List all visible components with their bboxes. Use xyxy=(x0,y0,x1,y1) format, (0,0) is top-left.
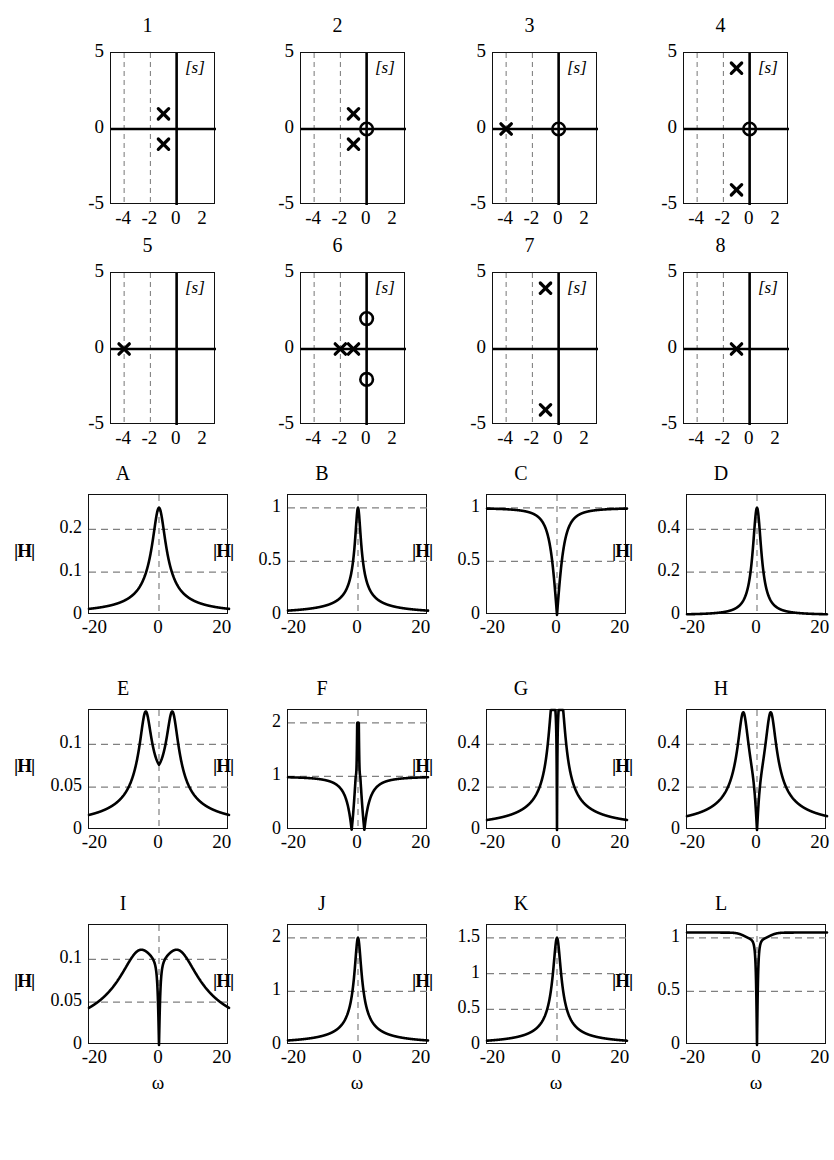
pz-y-tick: 0 xyxy=(268,116,294,138)
magnitude-canvas xyxy=(487,710,627,830)
panel-title: 6 xyxy=(230,234,445,257)
pz-x-tick: 2 xyxy=(567,207,601,229)
mag-x-tick: 0 xyxy=(136,1046,180,1068)
panel-title: K xyxy=(416,892,626,915)
mag-y-axis-label: |H| xyxy=(213,970,233,992)
pz-y-tick: 0 xyxy=(651,116,677,138)
magnitude-axes xyxy=(486,924,626,1044)
panel-title: 7 xyxy=(422,234,637,257)
magnitude-axes xyxy=(287,924,427,1044)
mag-x-tick: -20 xyxy=(670,1046,714,1068)
mag-y-axis-label: |H| xyxy=(612,755,632,777)
magnitude-panel: J012-20020|H|ω xyxy=(217,892,447,1092)
mag-y-tick: 0.5 xyxy=(235,549,281,570)
magnitude-canvas xyxy=(687,925,827,1045)
mag-y-tick: 0.2 xyxy=(634,560,680,581)
mag-x-tick: 0 xyxy=(335,1046,379,1068)
mag-x-tick: 0 xyxy=(335,831,379,853)
magnitude-panel: I00.050.1-20020|H|ω xyxy=(18,892,248,1092)
magnitude-canvas xyxy=(487,925,627,1045)
mag-x-tick: 20 xyxy=(798,831,834,853)
mag-y-axis-label: |H| xyxy=(213,540,233,562)
mag-x-tick: -20 xyxy=(670,831,714,853)
pz-y-tick: 0 xyxy=(460,116,486,138)
magnitude-axes xyxy=(486,709,626,829)
pz-y-tick: -5 xyxy=(460,412,486,434)
mag-y-tick: 1 xyxy=(235,496,281,517)
panel-title: 2 xyxy=(230,14,445,37)
mag-x-tick: 0 xyxy=(734,616,778,638)
s-plane-label: [s] xyxy=(185,58,205,78)
magnitude-canvas xyxy=(687,710,827,830)
pole-marker xyxy=(731,63,741,73)
mag-x-tick: -20 xyxy=(271,616,315,638)
s-plane-label: [s] xyxy=(185,278,205,298)
mag-x-tick: -20 xyxy=(72,616,116,638)
panel-title: G xyxy=(416,677,626,700)
mag-x-tick: 0 xyxy=(534,616,578,638)
pz-y-tick: -5 xyxy=(78,192,104,214)
panel-title: L xyxy=(616,892,826,915)
magnitude-panel: L00.51-20020|H|ω xyxy=(616,892,834,1092)
pz-y-tick: 5 xyxy=(651,40,677,62)
pz-y-tick: 0 xyxy=(651,336,677,358)
pole-marker xyxy=(540,283,550,293)
mag-y-axis-label: |H| xyxy=(14,540,34,562)
magnitude-curve xyxy=(487,710,627,830)
mag-x-tick: 0 xyxy=(534,1046,578,1068)
mag-x-tick: 0 xyxy=(734,1046,778,1068)
magnitude-canvas xyxy=(288,495,428,615)
mag-x-tick: 0 xyxy=(136,831,180,853)
pz-y-tick: 5 xyxy=(78,260,104,282)
mag-y-tick: 1 xyxy=(235,764,281,785)
pole-zero-panel: 7[s]50-5-4-202 xyxy=(422,234,637,456)
mag-x-tick: -20 xyxy=(72,1046,116,1068)
mag-y-tick: 0.1 xyxy=(36,560,82,581)
pole-marker xyxy=(348,109,358,119)
magnitude-panel: F012-20020|H| xyxy=(217,677,447,877)
magnitude-panel: H00.20.4-20020|H| xyxy=(616,677,834,877)
mag-x-tick: -20 xyxy=(470,616,514,638)
magnitude-axes xyxy=(88,494,228,614)
magnitude-canvas xyxy=(487,495,627,615)
s-plane-label: [s] xyxy=(375,58,395,78)
panel-title: J xyxy=(217,892,427,915)
magnitude-curve xyxy=(687,712,827,830)
pz-y-tick: 0 xyxy=(460,336,486,358)
panel-title: D xyxy=(616,462,826,485)
mag-y-tick: 0.4 xyxy=(634,517,680,538)
mag-y-tick: 0.05 xyxy=(36,775,82,796)
mag-y-tick: 2 xyxy=(235,711,281,732)
magnitude-panel: K00.511.5-20020|H|ω xyxy=(416,892,646,1092)
pole-marker xyxy=(158,139,168,149)
pz-x-tick: 2 xyxy=(375,427,409,449)
magnitude-panel: A00.10.2-20020|H| xyxy=(18,462,248,662)
mag-x-tick: -20 xyxy=(670,616,714,638)
magnitude-canvas xyxy=(687,495,827,615)
pz-y-tick: -5 xyxy=(268,192,294,214)
mag-x-tick: -20 xyxy=(271,831,315,853)
pz-y-tick: 0 xyxy=(78,116,104,138)
mag-y-tick: 0.5 xyxy=(434,997,480,1018)
magnitude-panel: C00.51-20020|H| xyxy=(416,462,646,662)
magnitude-axes xyxy=(88,709,228,829)
mag-y-axis-label: |H| xyxy=(612,540,632,562)
s-plane-label: [s] xyxy=(375,278,395,298)
magnitude-axes xyxy=(287,709,427,829)
pz-x-tick: 2 xyxy=(567,427,601,449)
pole-zero-panel: 6[s]50-5-4-202 xyxy=(230,234,445,456)
mag-x-tick: 20 xyxy=(798,1046,834,1068)
mag-y-tick: 0.2 xyxy=(36,517,82,538)
pz-x-tick: 2 xyxy=(758,427,792,449)
panel-title: I xyxy=(18,892,228,915)
mag-x-tick: -20 xyxy=(72,831,116,853)
panel-title: E xyxy=(18,677,228,700)
pz-y-tick: 0 xyxy=(78,336,104,358)
mag-x-tick: 20 xyxy=(798,616,834,638)
pole-zero-panel: 2[s]50-5-4-202 xyxy=(230,14,445,236)
mag-y-tick: 1 xyxy=(634,926,680,947)
pz-y-tick: -5 xyxy=(651,412,677,434)
pz-y-tick: -5 xyxy=(651,192,677,214)
mag-y-axis-label: |H| xyxy=(14,970,34,992)
pole-marker xyxy=(540,405,550,415)
